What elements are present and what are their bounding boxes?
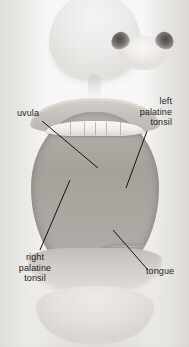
nose (49, 0, 141, 78)
label-tongue: tongue (146, 266, 174, 277)
label-right-palatine-tonsil: right palatine tonsil (4, 252, 66, 284)
oral-cavity-figure: uvula left palatine tonsil right palatin… (0, 0, 189, 347)
label-left-palatine-tonsil: left palatine tonsil (96, 96, 172, 128)
label-uvula: uvula (17, 108, 39, 119)
